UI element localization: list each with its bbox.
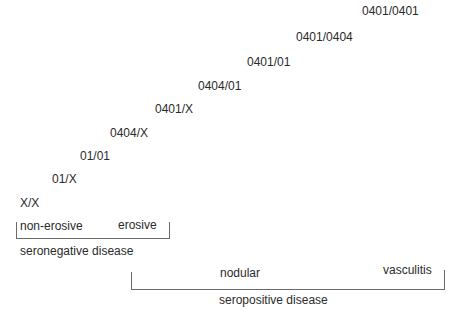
genotype-label: X/X [20, 196, 39, 210]
seropositive-disease-label: seropositive disease [219, 293, 328, 307]
seropositive-bracket-left [131, 272, 132, 290]
genotype-label: 01/01 [80, 149, 110, 163]
genotype-label: 01/X [52, 172, 77, 186]
genotype-label: 0401/0404 [296, 30, 353, 44]
seronegative-bracket-right [169, 222, 170, 239]
genotype-label: 0401/0401 [362, 4, 419, 18]
erosive-label: erosive [118, 218, 157, 232]
vasculitis-label: vasculitis [383, 263, 432, 277]
genotype-label: 0401/X [155, 102, 193, 116]
seropositive-bracket-bottom [131, 289, 445, 290]
seropositive-bracket-right [444, 270, 445, 290]
genotype-label: 0404/01 [198, 79, 241, 93]
seronegative-bracket-left [16, 222, 17, 239]
genotype-label: 0404/X [110, 126, 148, 140]
nodular-label: nodular [220, 266, 260, 280]
seronegative-bracket-bottom [16, 238, 170, 239]
seronegative-disease-label: seronegative disease [20, 244, 133, 258]
genotype-label: 0401/01 [247, 55, 290, 69]
non-erosive-label: non-erosive [20, 219, 83, 233]
